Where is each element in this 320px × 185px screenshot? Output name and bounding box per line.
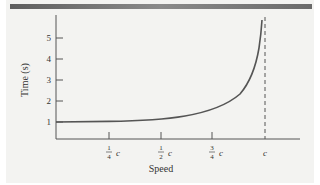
y-tick-label: 3 — [47, 75, 52, 85]
x-tick-c: c — [263, 148, 267, 158]
x-tick-quarter: 1 4 c — [106, 144, 120, 161]
svg-text:4: 4 — [210, 153, 214, 161]
y-axis-label: Time (s) — [19, 63, 31, 97]
x-axis-label: Speed — [149, 163, 173, 174]
x-tick-labels: 1 4 c 1 2 c 3 4 c c — [106, 144, 267, 161]
x-tick-half: 1 2 c — [158, 144, 172, 161]
y-tick-label: 4 — [47, 54, 52, 64]
y-ticks — [56, 38, 63, 122]
x-ticks — [109, 132, 212, 139]
svg-text:1: 1 — [159, 144, 163, 152]
svg-text:c: c — [168, 148, 172, 158]
x-tick-three-quarter: 3 4 c — [209, 144, 223, 161]
svg-text:c: c — [219, 148, 223, 158]
time-dilation-chart: 1 2 3 4 5 Time (s) 1 4 c 1 2 c 3 4 c — [0, 0, 320, 185]
y-tick-label: 5 — [47, 33, 52, 43]
svg-text:2: 2 — [159, 153, 163, 161]
y-tick-label: 1 — [47, 117, 52, 127]
svg-text:3: 3 — [210, 144, 214, 152]
y-tick-label: 2 — [47, 96, 52, 106]
y-tick-labels: 1 2 3 4 5 — [47, 33, 52, 127]
time-dilation-curve — [56, 20, 262, 122]
svg-text:1: 1 — [107, 144, 111, 152]
svg-text:c: c — [116, 148, 120, 158]
svg-text:4: 4 — [107, 153, 111, 161]
